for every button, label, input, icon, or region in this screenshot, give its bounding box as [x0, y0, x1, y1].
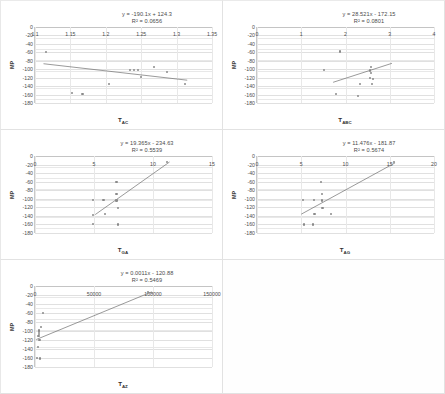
plot-area: 0-20-40-60-80-100-120-140-160-1800500001… [34, 286, 212, 367]
x-axis-title-subscript: AZ [122, 384, 128, 389]
trendline [35, 156, 212, 233]
data-point [313, 213, 315, 215]
y-tick-label: -140 [245, 83, 255, 89]
data-point [81, 93, 83, 95]
y-tick-label: -140 [23, 83, 33, 89]
r-squared-text: R² = 0.5674 [308, 147, 429, 154]
chart-chart-taz: y = 0.0011x - 120.88R² = 0.5469MP0-20-40… [7, 264, 216, 389]
trendline-equation-annotation: y = 28.521x - 172.15R² = 0.0801 [308, 11, 429, 25]
y-tick-label: -40 [26, 170, 34, 176]
x-gridline [434, 156, 435, 233]
y-tick-label: -100 [23, 66, 33, 72]
trendline [257, 156, 434, 233]
chart-chart-tac: y = -190.1x + 124.3R² = 0.0656MP0-20-40-… [7, 5, 216, 125]
r-squared-text: R² = 0.5539 [86, 147, 207, 154]
y-tick-label: -40 [248, 170, 256, 176]
y-tick-label: 0 [252, 24, 255, 30]
y-tick-label: -20 [26, 162, 34, 168]
y-tick-label: -60 [248, 49, 256, 55]
y-tick-label: -120 [23, 337, 33, 343]
data-point [42, 312, 44, 314]
x-axis-title: TABC [256, 116, 434, 125]
y-tick-label: -120 [245, 75, 255, 81]
chart-chart-tabc: y = 28.521x - 172.15R² = 0.0801MP0-20-40… [229, 5, 438, 125]
x-axis-title-subscript: AG [344, 250, 351, 255]
equation-text: y = 0.0011x - 120.88 [86, 270, 207, 277]
y-tick-label: -180 [23, 230, 33, 236]
data-point [335, 93, 337, 95]
y-tick-label: -140 [23, 213, 33, 219]
data-point [303, 223, 305, 225]
data-point [320, 181, 322, 183]
y-tick-label: -120 [245, 204, 255, 210]
y-tick-label: 0 [30, 153, 33, 159]
equation-text: y = -190.1x + 124.3 [86, 11, 207, 18]
y-axis-title: MP [9, 322, 15, 330]
equation-text: y = 28.521x - 172.15 [308, 11, 429, 18]
data-point [321, 193, 323, 195]
scatter-plot-grid: y = -190.1x + 124.3R² = 0.0656MP0-20-40-… [0, 0, 445, 394]
y-tick-label: -160 [245, 92, 255, 98]
y-tick-label: -140 [23, 346, 33, 352]
data-point [313, 199, 315, 201]
x-axis-title-subscript: GA [122, 250, 129, 255]
x-gridline [212, 27, 213, 103]
data-point [339, 50, 341, 52]
y-tick-label: -80 [26, 58, 34, 64]
y-gridline [35, 367, 212, 368]
x-gridline [434, 27, 435, 103]
data-point [302, 199, 304, 201]
data-point [137, 69, 139, 71]
data-point [104, 213, 106, 215]
y-tick-label: -80 [248, 187, 256, 193]
x-gridline [212, 286, 213, 367]
y-tick-label: -160 [245, 221, 255, 227]
chart-panel-chart-tac: y = -190.1x + 124.3R² = 0.0656MP0-20-40-… [0, 0, 223, 130]
data-point [117, 223, 119, 225]
y-axis-title: MP [231, 190, 237, 198]
y-tick-label: -160 [23, 221, 33, 227]
data-point [369, 77, 371, 79]
trendline-equation-annotation: y = -190.1x + 124.3R² = 0.0656 [86, 11, 207, 25]
y-tick-label: -160 [23, 355, 33, 361]
data-point [115, 181, 117, 183]
data-point [312, 223, 314, 225]
y-gridline [257, 103, 434, 104]
chart-panel-chart-tag: y = 11.476x - 181.87R² = 0.5674MP0-20-40… [223, 130, 445, 260]
chart-panel-empty [223, 260, 445, 394]
x-axis-title-subscript: AC [122, 120, 128, 125]
y-tick-label: -80 [26, 187, 34, 193]
y-tick-label: -40 [26, 41, 34, 47]
data-point [92, 199, 94, 201]
x-axis-title: TAC [34, 116, 212, 125]
data-point [321, 199, 323, 201]
equation-text: y = 19.365x - 234.63 [86, 140, 207, 147]
y-tick-label: -100 [23, 328, 33, 334]
trendline [35, 286, 212, 367]
data-point [115, 199, 117, 201]
y-tick-label: -140 [245, 213, 255, 219]
y-tick-label: -180 [23, 364, 33, 370]
y-tick-label: 0 [30, 24, 33, 30]
x-gridline [212, 156, 213, 233]
y-gridline [35, 103, 212, 104]
data-point [36, 357, 38, 359]
y-tick-label: -100 [245, 196, 255, 202]
y-tick-label: -40 [26, 301, 34, 307]
y-axis-title: MP [9, 61, 15, 69]
data-point [357, 95, 359, 97]
data-point [153, 66, 155, 68]
chart-chart-tga: y = 19.365x - 234.63R² = 0.5539MP0-20-40… [7, 134, 216, 255]
chart-panel-chart-taz: y = 0.0011x - 120.88R² = 0.5469MP0-20-40… [0, 260, 223, 394]
y-gridline [257, 233, 434, 234]
y-tick-label: -60 [26, 179, 34, 185]
y-tick-label: -100 [245, 66, 255, 72]
data-point [370, 72, 372, 74]
data-point [92, 214, 94, 216]
plot-area: 0-20-40-60-80-100-120-140-160-180051015 [34, 156, 212, 233]
y-tick-label: -120 [23, 204, 33, 210]
x-axis-title: TAG [256, 246, 434, 255]
y-tick-label: -60 [248, 179, 256, 185]
trendline [257, 27, 434, 103]
r-squared-text: R² = 0.0801 [308, 18, 429, 25]
